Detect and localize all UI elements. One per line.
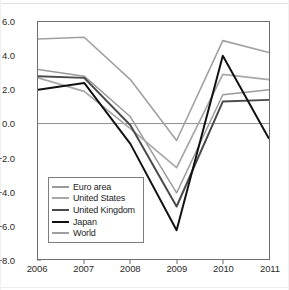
y-tick-label: −6.0 bbox=[0, 220, 15, 231]
legend-swatch bbox=[52, 209, 69, 211]
legend-label: World bbox=[73, 228, 96, 238]
x-tick-label: 2010 bbox=[213, 263, 234, 274]
legend-label: Euro area bbox=[73, 182, 111, 192]
x-tick-label: 2008 bbox=[120, 263, 141, 274]
x-tick-mark bbox=[223, 260, 224, 264]
y-tick-label: −8.0 bbox=[0, 255, 15, 266]
x-tick-mark bbox=[83, 260, 84, 264]
legend-swatch bbox=[52, 186, 69, 188]
legend-swatch bbox=[52, 232, 69, 234]
y-tick-label: 2.0 bbox=[0, 84, 15, 95]
legend-item: United States bbox=[52, 193, 139, 205]
y-tick-label: 0.0 bbox=[0, 118, 15, 129]
page-edge-right bbox=[288, 0, 289, 290]
y-tick-label: 4.0 bbox=[0, 50, 15, 61]
legend-item: United Kingdom bbox=[52, 204, 139, 216]
y-tick-label: −2.0 bbox=[0, 152, 15, 163]
x-tick-mark bbox=[130, 260, 131, 264]
legend-swatch bbox=[52, 221, 69, 223]
y-tick-label: −4.0 bbox=[0, 186, 15, 197]
y-tick-label: 6.0 bbox=[0, 16, 15, 27]
legend-label: United States bbox=[73, 193, 125, 203]
x-tick-label: 2009 bbox=[166, 263, 187, 274]
page-rule-top bbox=[0, 3, 289, 4]
page-rule-bottom bbox=[0, 287, 289, 288]
chart-figure: 6.04.02.00.0−2.0−4.0−6.0−8.0 20062007200… bbox=[0, 0, 289, 290]
x-tick-mark bbox=[176, 260, 177, 264]
legend-label: Japan bbox=[73, 217, 97, 227]
legend-label: United Kingdom bbox=[73, 205, 135, 215]
x-tick-label: 2007 bbox=[73, 263, 94, 274]
page-edge-left bbox=[0, 0, 1, 290]
legend-item: World bbox=[52, 227, 139, 239]
chart-legend: Euro areaUnited StatesUnited KingdomJapa… bbox=[48, 177, 144, 243]
legend-item: Euro area bbox=[52, 181, 139, 193]
x-tick-label: 2006 bbox=[27, 263, 48, 274]
legend-item: Japan bbox=[52, 216, 139, 228]
x-tick-label: 2011 bbox=[260, 263, 280, 274]
legend-swatch bbox=[52, 197, 69, 199]
